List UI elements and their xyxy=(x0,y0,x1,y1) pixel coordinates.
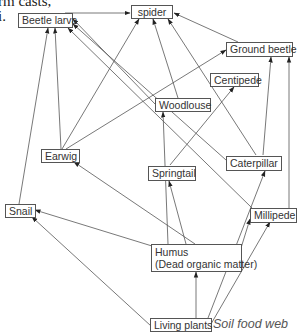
node-woodlouse: Woodlouse xyxy=(155,98,211,112)
node-spider: spider xyxy=(131,5,173,19)
edge-earwig-spider xyxy=(62,19,139,149)
edge-humus-millipede xyxy=(241,219,250,248)
node-living-plants: Living plants xyxy=(150,318,212,332)
edge-caterpillar-spider xyxy=(168,19,256,155)
edge-humus-springtail xyxy=(169,181,186,244)
node-earwig: Earwig xyxy=(41,149,80,163)
node-millipede: Millipede xyxy=(250,208,297,223)
edge-snail-beetlelarva xyxy=(19,28,48,204)
node-humus: Humus (Dead organic matter) xyxy=(151,244,242,272)
node-caterpillar: Caterpillar xyxy=(226,156,282,171)
node-centipede: Centipede xyxy=(210,73,259,87)
edge-earwig-beetlelarva xyxy=(55,28,61,149)
edge-plants-millipede xyxy=(211,222,270,324)
node-humus-line2: (Dead organic matter) xyxy=(155,258,238,270)
node-beetle-larva: Beetle larva xyxy=(18,13,73,28)
node-snail: Snail xyxy=(5,204,36,218)
node-humus-line1: Humus xyxy=(155,246,238,258)
edge-caterpillar-groundbeetle xyxy=(263,57,271,155)
node-springtail: Springtail xyxy=(148,166,196,181)
edge-humus-snail xyxy=(35,210,165,250)
edge-woodlouse-beetlelarva xyxy=(73,19,155,104)
diagram-caption: Soil food web xyxy=(213,317,288,331)
edge-groundbeetle-spider xyxy=(174,13,238,42)
edge-plants-snail xyxy=(32,217,151,326)
edge-millipede-beetlelarva xyxy=(68,28,252,208)
edge-woodlouse-spider xyxy=(153,19,178,98)
node-ground-beetle: Ground beetle xyxy=(226,42,293,57)
